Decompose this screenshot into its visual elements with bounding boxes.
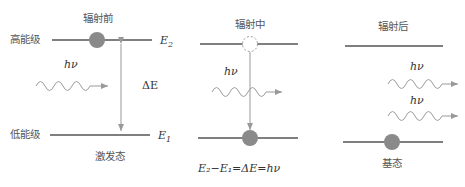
panel-during: 辐射中 hν E₂−E₁=ΔE=hν	[197, 18, 298, 175]
photon-wave-icon-2	[388, 112, 442, 121]
electron-excited	[89, 32, 105, 48]
photon-wave-icon	[36, 82, 90, 91]
stimulated-emission-diagram: 辐射前 高能级 E2 ΔE hν 低能级 E1 激发态 辐射中 hν E₂−E₁…	[0, 0, 465, 187]
electron-ground	[384, 134, 400, 150]
upper-level-label: 高能级	[10, 33, 41, 45]
energy-gap-label: ΔE	[142, 79, 158, 92]
panel-title-during: 辐射中	[235, 18, 265, 30]
ground-state-label: 基态	[382, 157, 403, 169]
energy-equation: E₂−E₁=ΔE=hν	[197, 162, 281, 175]
panel-title-before: 辐射前	[83, 12, 113, 24]
photon-label-2: hν	[410, 94, 424, 107]
photon-label: hν	[64, 58, 78, 71]
upper-energy-symbol: E2	[159, 34, 173, 49]
panel-before: 辐射前 高能级 E2 ΔE hν 低能级 E1 激发态	[10, 12, 173, 162]
panel-after: 辐射后 hν hν 基态	[343, 20, 458, 169]
excited-state-label: 激发态	[95, 150, 126, 162]
panel-title-after: 辐射后	[378, 20, 408, 32]
photon-wave-icon-1	[388, 80, 442, 89]
photon-label: hν	[224, 65, 238, 78]
lower-energy-symbol: E1	[157, 129, 171, 144]
photon-wave-icon	[212, 88, 266, 97]
electron-ground	[242, 130, 258, 146]
electron-vacated-position	[243, 37, 258, 52]
photon-label-1: hν	[410, 60, 424, 73]
lower-level-label: 低能级	[10, 128, 41, 140]
